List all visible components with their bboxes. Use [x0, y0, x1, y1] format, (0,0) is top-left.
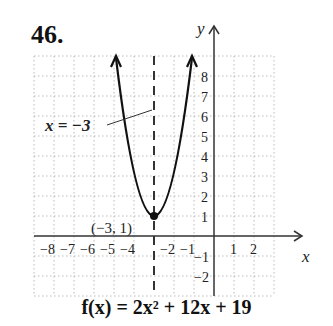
svg-text:5: 5	[201, 130, 208, 145]
function-label: f(x) = 2x² + 12x + 19	[0, 296, 333, 319]
svg-text:−1: −1	[194, 250, 209, 265]
svg-text:8: 8	[201, 70, 208, 85]
svg-text:1: 1	[201, 210, 208, 225]
y-axis-label: y	[195, 19, 205, 38]
svg-text:−4: −4	[120, 242, 135, 257]
axis-of-symmetry-label: x = −3	[44, 116, 91, 135]
svg-text:−5: −5	[100, 242, 115, 257]
svg-text:−1: −1	[180, 242, 195, 257]
svg-text:4: 4	[201, 150, 208, 165]
svg-text:1: 1	[230, 242, 237, 257]
svg-text:2: 2	[250, 242, 257, 257]
svg-text:3: 3	[201, 170, 208, 185]
svg-text:−2: −2	[160, 242, 175, 257]
x-tick-labels: −8 −7 −6 −5 −4 −2 −1 1 2	[40, 242, 257, 257]
svg-text:−8: −8	[40, 242, 55, 257]
vertex-point	[150, 212, 158, 220]
y-tick-labels: 8 7 6 5 4 3 2 1 −1 −2	[194, 70, 209, 285]
parabola-graph: x y 8 7 6 5 4 3 2 1 −1 −2 −8 −7 −6 −5 −4…	[0, 0, 333, 326]
vertex-label: (−3, 1)	[91, 220, 132, 237]
svg-text:6: 6	[201, 110, 208, 125]
svg-text:7: 7	[201, 90, 208, 105]
svg-text:−2: −2	[194, 270, 209, 285]
svg-text:−6: −6	[80, 242, 95, 257]
x-axis-label: x	[301, 247, 310, 266]
svg-text:−7: −7	[60, 242, 75, 257]
svg-text:2: 2	[201, 190, 208, 205]
